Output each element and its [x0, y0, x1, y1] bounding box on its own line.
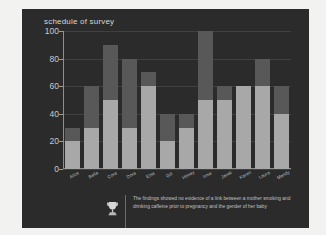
trophy-icon: [99, 195, 125, 217]
bar-segment-lower: [122, 128, 136, 169]
x-tick-label: Bella: [85, 168, 106, 191]
bar-alice[interactable]: [65, 31, 79, 169]
y-tick-label: 40: [50, 109, 59, 119]
y-tick-label: 60: [50, 81, 59, 91]
bar-irnie[interactable]: [198, 31, 212, 169]
bar-segment-upper: [65, 128, 79, 142]
bar-segment-lower: [274, 114, 288, 169]
plot-area: 020406080100: [63, 31, 291, 169]
bar-segment-upper: [274, 86, 288, 114]
x-tick-label: Gill: [161, 168, 182, 191]
note-callout: The findings showed no evidence of a lin…: [99, 195, 299, 228]
y-tick-label: 20: [50, 136, 59, 146]
y-tick-label: 0: [54, 164, 59, 174]
x-tick-label: Mandy: [275, 168, 296, 191]
y-tick-mark: [59, 169, 63, 170]
x-axis-labels: AliceBellaCoraDoraElsaGillHoneyIrnieJane…: [63, 171, 291, 189]
note-text: The findings showed no evidence of a lin…: [133, 195, 293, 211]
bar-honey[interactable]: [179, 31, 193, 169]
x-tick-label: Alice: [66, 168, 87, 191]
x-tick-label: Cora: [104, 168, 125, 191]
y-tick-label: 80: [50, 54, 59, 64]
bar-segment-upper: [160, 114, 174, 142]
x-tick-label: Irnie: [199, 168, 220, 191]
bar-segment-upper: [103, 45, 117, 100]
x-tick-label: Janet: [218, 168, 239, 191]
bar-cora[interactable]: [103, 31, 117, 169]
slide-canvas: schedule of survey 020406080100 AliceBel…: [0, 0, 326, 235]
bar-segment-lower: [236, 86, 250, 169]
x-tick-label: Elsa: [142, 168, 163, 191]
bar-segment-lower: [160, 141, 174, 169]
bar-segment-lower: [84, 128, 98, 169]
bar-segment-upper: [84, 86, 98, 127]
bar-elsa[interactable]: [141, 31, 155, 169]
x-tick-label: Laura: [256, 168, 277, 191]
bar-segment-upper: [141, 72, 155, 86]
page-title: schedule of survey: [44, 17, 114, 26]
bar-segment-lower: [65, 141, 79, 169]
note-divider: [125, 195, 126, 228]
bar-segment-upper: [255, 59, 269, 87]
bar-segment-lower: [141, 86, 155, 169]
x-tick-label: Honey: [180, 168, 201, 191]
bar-dora[interactable]: [122, 31, 136, 169]
bar-group: [63, 31, 291, 169]
bar-segment-lower: [179, 128, 193, 169]
bar-segment-upper: [217, 86, 231, 100]
bar-laura[interactable]: [255, 31, 269, 169]
bar-segment-upper: [179, 114, 193, 128]
bar-segment-upper: [198, 31, 212, 100]
bar-segment-upper: [122, 59, 136, 128]
y-tick-label: 100: [45, 26, 59, 36]
x-tick-label: Dora: [123, 168, 144, 191]
bar-karen[interactable]: [236, 31, 250, 169]
bar-janet[interactable]: [217, 31, 231, 169]
bar-mandy[interactable]: [274, 31, 288, 169]
chart-panel: schedule of survey 020406080100 AliceBel…: [22, 9, 309, 228]
bar-gill[interactable]: [160, 31, 174, 169]
bar-segment-lower: [198, 100, 212, 169]
x-tick-label: Karen: [237, 168, 258, 191]
bar-segment-lower: [255, 86, 269, 169]
bar-segment-lower: [103, 100, 117, 169]
bar-bella[interactable]: [84, 31, 98, 169]
bar-segment-lower: [217, 100, 231, 169]
